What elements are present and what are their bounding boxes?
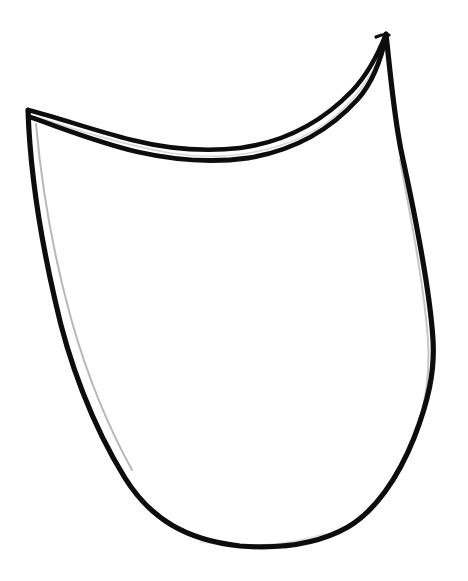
drawing-canvas: Hand-drawn shield outline A hand-drawn b…	[0, 0, 468, 581]
paper-background	[0, 0, 468, 581]
shield-line-drawing: Hand-drawn shield outline A hand-drawn b…	[0, 0, 468, 581]
